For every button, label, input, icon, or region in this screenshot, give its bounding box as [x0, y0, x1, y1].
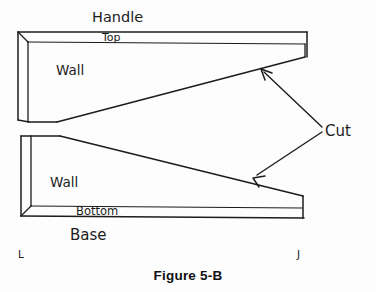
- handle-cut-edge: [57, 57, 305, 122]
- label-wall-lower: Wall: [50, 174, 78, 190]
- label-corner-left: L: [18, 248, 24, 260]
- base-outer-bottom-edge: [21, 216, 304, 218]
- figure-drawing: Handle Top Wall Wall Bottom Base Cut L J: [0, 0, 376, 292]
- label-base: Base: [70, 226, 107, 244]
- cut-leader-line-lower: [257, 132, 322, 175]
- label-cut: Cut: [325, 122, 351, 140]
- handle-corner-bevel: [18, 32, 28, 42]
- base-corner-bevel: [21, 206, 31, 216]
- base-cut-edge: [60, 136, 303, 196]
- handle-top-band-line: [28, 42, 305, 44]
- label-corner-right: J: [296, 248, 300, 260]
- figure-container: Handle Top Wall Wall Bottom Base Cut L J…: [0, 0, 376, 292]
- figure-caption: Figure 5-B: [0, 268, 376, 283]
- label-top: Top: [101, 31, 121, 44]
- cut-leader-line-upper: [264, 72, 322, 127]
- base-bottom-band-line: [31, 206, 302, 208]
- label-handle: Handle: [92, 9, 143, 25]
- label-wall-upper: Wall: [56, 62, 84, 78]
- cut-leader: [253, 69, 322, 187]
- label-bottom: Bottom: [76, 204, 118, 218]
